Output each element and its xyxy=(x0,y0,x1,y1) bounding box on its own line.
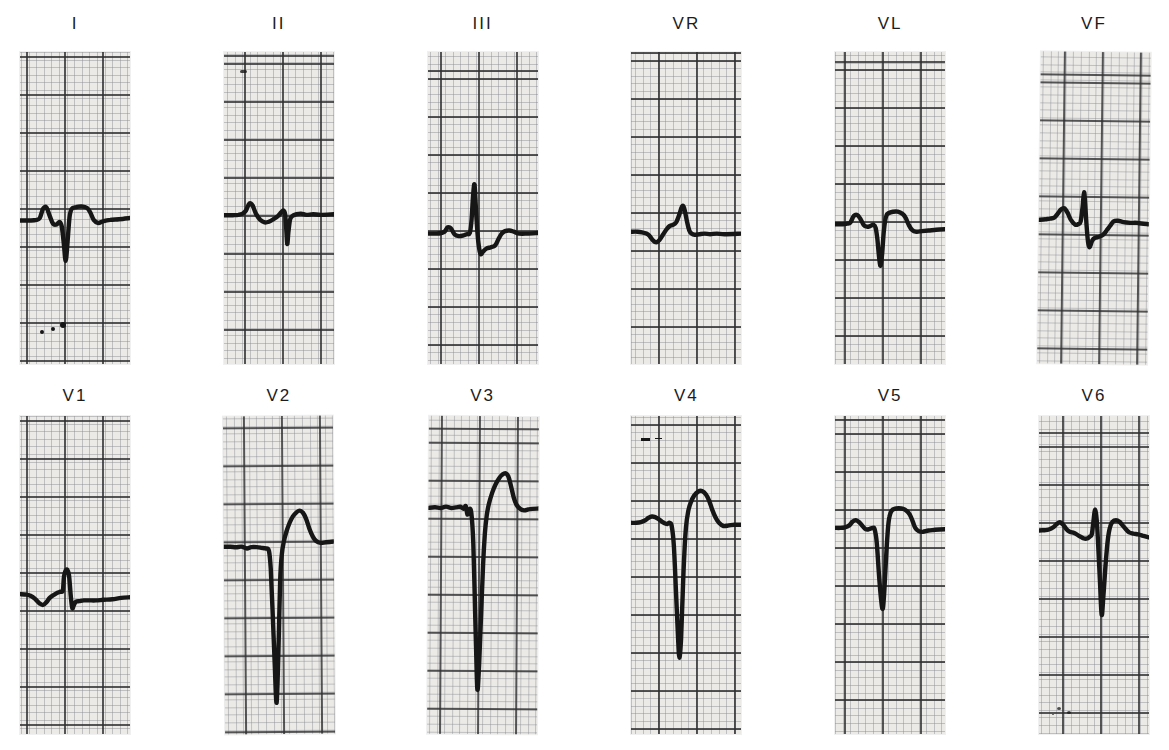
ecg-trace xyxy=(631,416,741,734)
ecg-trace xyxy=(427,416,539,735)
ecg-trace xyxy=(223,416,335,735)
ecg-paper-strip xyxy=(631,52,741,364)
ecg-paper-strip xyxy=(1039,416,1149,734)
ecg-lead-label: V2 xyxy=(266,384,291,408)
ecg-lead-label: V3 xyxy=(470,384,495,408)
ecg-lead-cell-v3: V3 xyxy=(418,364,548,734)
ecg-lead-label: I xyxy=(72,12,79,36)
ecg-lead-cell-i: I xyxy=(10,0,140,364)
ecg-row-limb-leads: I II III VR VL VF xyxy=(0,0,1169,364)
ecg-trace xyxy=(1037,51,1151,364)
ecg-lead-label: II xyxy=(272,12,285,36)
ecg-paper-strip xyxy=(20,52,130,364)
ecg-lead-cell-v6: V6 xyxy=(1029,364,1159,734)
ecg-trace xyxy=(1039,416,1149,734)
ecg-lead-label: VF xyxy=(1081,12,1107,36)
ecg-trace xyxy=(835,416,945,734)
ecg-lead-cell-vf: VF xyxy=(1029,0,1159,364)
ecg-paper-strip xyxy=(631,416,741,734)
ecg-lead-cell-vr: VR xyxy=(621,0,751,364)
ecg-paper-strip xyxy=(428,52,538,364)
ecg-lead-label: V1 xyxy=(63,384,88,408)
ecg-lead-cell-iii: III xyxy=(418,0,548,364)
ecg-lead-cell-ii: II xyxy=(214,0,344,364)
ecg-lead-label: VR xyxy=(673,12,701,36)
ecg-trace xyxy=(20,416,130,734)
ecg-lead-label: V6 xyxy=(1082,384,1107,408)
ecg-lead-label: III xyxy=(473,12,493,36)
ecg-row-chest-leads: V1 V2 V3 V4 V5 V6 xyxy=(0,364,1169,734)
ecg-lead-cell-v4: V4 xyxy=(621,364,751,734)
ecg-trace xyxy=(631,52,741,364)
ecg-paper-strip xyxy=(223,416,335,735)
ecg-paper-strip xyxy=(427,416,539,735)
ecg-trace xyxy=(835,52,945,364)
ecg-lead-label: VL xyxy=(878,12,903,36)
ecg-lead-label: V4 xyxy=(674,384,699,408)
ecg-lead-cell-vl: VL xyxy=(825,0,955,364)
ecg-paper-strip xyxy=(835,52,945,364)
ecg-trace xyxy=(224,52,334,364)
ecg-trace xyxy=(428,52,538,364)
ecg-paper-strip xyxy=(224,52,334,364)
ecg-paper-strip xyxy=(1037,51,1151,364)
ecg-lead-cell-v2: V2 xyxy=(214,364,344,734)
ecg-lead-cell-v1: V1 xyxy=(10,364,140,734)
ecg-figure: I II III VR VL VF V1 xyxy=(0,0,1169,750)
ecg-paper-strip xyxy=(835,416,945,734)
ecg-paper-strip xyxy=(20,416,130,734)
ecg-lead-cell-v5: V5 xyxy=(825,364,955,734)
ecg-trace xyxy=(20,52,130,364)
ecg-lead-label: V5 xyxy=(878,384,903,408)
